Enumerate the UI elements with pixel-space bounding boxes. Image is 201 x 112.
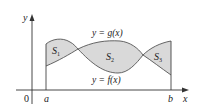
region-s3-label: S3 (154, 52, 162, 63)
x-axis-label: x (183, 94, 187, 104)
curve-f-label: y = f(x) (92, 76, 121, 86)
region-s3-subscript: 3 (159, 57, 162, 63)
y-axis-arrow-icon (30, 14, 35, 21)
region-s2-label: S2 (106, 52, 114, 63)
curve-g-label: y = g(x) (92, 29, 123, 39)
bound-label-a: a (44, 94, 49, 104)
origin-label: 0 (24, 94, 29, 104)
region-s2-subscript: 2 (111, 57, 114, 63)
y-axis-label: y (23, 13, 27, 23)
bound-label-b: b (168, 94, 173, 104)
region-s1-subscript: 1 (57, 51, 60, 57)
x-axis-arrow-icon (182, 88, 189, 93)
region-s1-fill (46, 39, 78, 66)
region-s1-label: S1 (52, 46, 60, 57)
area-between-curves-diagram: y x 0 a b y = g(x) y = f(x) S1 S2 S3 (0, 0, 201, 112)
